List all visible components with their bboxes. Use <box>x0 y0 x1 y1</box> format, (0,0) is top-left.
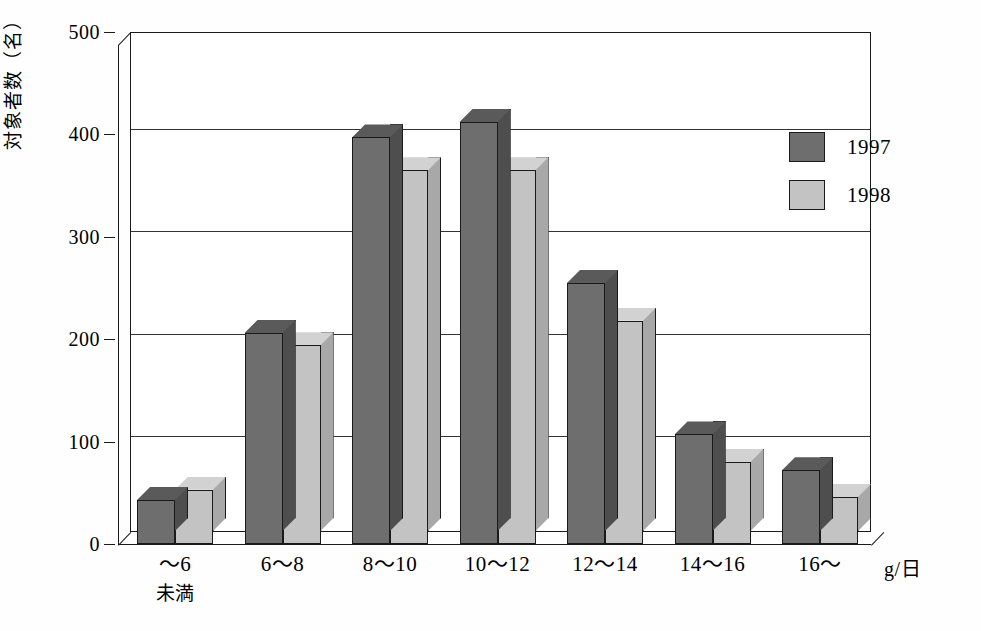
bar-front-face <box>675 434 713 544</box>
bar-side-face <box>390 124 403 531</box>
bar-1997-16～ <box>782 457 820 544</box>
bar-side-face <box>428 157 441 531</box>
x-tick-label-6: 14～16 <box>653 552 773 577</box>
bar-side-face <box>820 457 833 531</box>
legend-item-1998: 1998 <box>789 180 939 216</box>
bar-front-face <box>137 500 175 544</box>
bar-series-group <box>0 0 981 631</box>
x-tick-label-text: 8～10 <box>363 552 418 576</box>
x-tick-label-1: ～6未満 <box>115 552 235 606</box>
bar-front-face <box>245 333 283 544</box>
bar-side-face <box>713 421 726 531</box>
legend-label: 1997 <box>847 132 891 162</box>
bar-1997-12～14 <box>567 270 605 544</box>
x-tick-label-text: 14～16 <box>680 552 746 576</box>
x-axis-unit-text: g/日 <box>884 558 921 580</box>
bar-side-face <box>536 157 549 531</box>
bar-side-face <box>321 332 334 531</box>
x-tick-label-4: 10～12 <box>438 552 558 577</box>
bar-front-face <box>567 283 605 544</box>
bar-front-face <box>460 122 498 544</box>
x-tick-label-text: 6～8 <box>261 552 305 576</box>
bar-side-face <box>283 320 296 531</box>
legend-label: 1998 <box>847 180 891 210</box>
x-axis-unit-label: g/日 <box>884 553 921 582</box>
legend-item-1997: 1997 <box>789 132 939 168</box>
x-tick-label-2: 6～8 <box>223 552 343 577</box>
chart-figure: 0 100 200 300 400 500 対象者数（名） ～6未満6～88～1… <box>0 0 981 631</box>
bar-1997-～6 <box>137 487 175 544</box>
legend-swatch-icon <box>789 180 825 210</box>
bar-1997-10～12 <box>460 109 498 544</box>
x-tick-label-7: 16～ <box>760 552 880 577</box>
x-tick-label-text: 10～12 <box>465 552 531 576</box>
legend-swatch-icon <box>789 132 825 162</box>
bar-side-face <box>605 270 618 531</box>
x-tick-labels: ～6未満6～88～1010～1212～1414～1616～ <box>0 552 981 622</box>
x-tick-label-text: ～6 <box>159 552 192 576</box>
bar-1997-6～8 <box>245 320 283 544</box>
legend: 1997 1998 <box>789 132 939 218</box>
bar-front-face <box>782 470 820 544</box>
bar-side-face <box>498 109 511 531</box>
x-tick-label-3: 8～10 <box>330 552 450 577</box>
bar-1997-8～10 <box>352 124 390 544</box>
bar-side-face <box>643 308 656 531</box>
bar-front-face <box>352 137 390 544</box>
bar-side-face <box>751 449 764 531</box>
x-tick-label-text: 16～ <box>798 552 842 576</box>
x-tick-label-text: 12～14 <box>572 552 638 576</box>
bar-1997-14～16 <box>675 421 713 544</box>
x-tick-label-5: 12～14 <box>545 552 665 577</box>
x-tick-sublabel-text: 未満 <box>115 581 235 606</box>
